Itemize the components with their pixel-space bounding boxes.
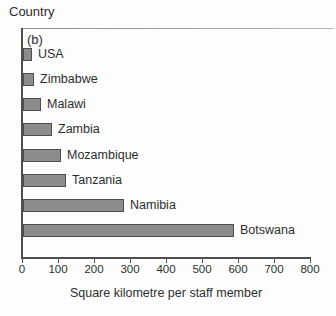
x-tick-label-800: 800 xyxy=(290,263,330,275)
x-axis-title: Square kilometre per staff member xyxy=(21,286,311,300)
bar-usa xyxy=(23,48,32,61)
x-tick-label-700: 700 xyxy=(254,263,294,275)
x-tick-label-400: 400 xyxy=(146,263,186,275)
bar-botswana xyxy=(23,224,234,237)
x-tick-label-500: 500 xyxy=(182,263,222,275)
bar-zimbabwe xyxy=(23,73,34,86)
bar-zambia xyxy=(23,123,52,136)
bar-label-namibia: Namibia xyxy=(130,198,176,213)
bar-label-usa: USA xyxy=(38,47,64,62)
x-tick-label-600: 600 xyxy=(218,263,258,275)
bar-mozambique xyxy=(23,149,61,162)
x-tick-label-300: 300 xyxy=(110,263,150,275)
bar-label-botswana: Botswana xyxy=(240,223,295,238)
panel-label: (b) xyxy=(27,32,43,47)
bar-label-zambia: Zambia xyxy=(58,122,100,137)
bar-label-malawi: Malawi xyxy=(47,97,86,112)
x-tick-label-0: 0 xyxy=(2,263,42,275)
plot-top-border xyxy=(21,28,334,29)
y-axis-title: Country xyxy=(9,4,55,19)
bar-namibia xyxy=(23,199,124,212)
bar-label-mozambique: Mozambique xyxy=(67,148,139,163)
x-tick-label-100: 100 xyxy=(38,263,78,275)
bar-tanzania xyxy=(23,174,66,187)
bar-label-tanzania: Tanzania xyxy=(72,173,122,188)
x-tick-label-200: 200 xyxy=(74,263,114,275)
bar-chart-figure: Country (b) USAZimbabweMalawiZambiaMozam… xyxy=(0,0,336,316)
bar-label-zimbabwe: Zimbabwe xyxy=(40,72,98,87)
bar-malawi xyxy=(23,98,41,111)
